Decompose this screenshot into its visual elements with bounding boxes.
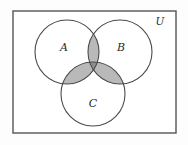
venn-diagram-canvas: A B C U	[0, 0, 188, 145]
set-label-a: A	[59, 41, 68, 54]
universal-set-label-u: U	[156, 15, 166, 27]
venn-diagram-figure: A B C U	[0, 0, 188, 145]
set-label-b: B	[116, 41, 125, 54]
set-label-c: C	[89, 97, 98, 110]
